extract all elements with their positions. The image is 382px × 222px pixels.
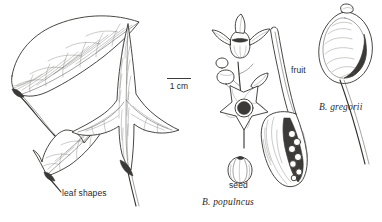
label-seed: seed (229, 181, 248, 190)
figure-follicle-fruit (261, 27, 307, 187)
label-fruit: fruit (291, 66, 306, 75)
label-leaf-shapes: leaf shapes (62, 189, 107, 198)
botanical-illustration-plate: .o { fill:#ffffff; stroke:#33322f; strok… (0, 0, 382, 222)
label-species-populneus: B. populncus (202, 198, 254, 208)
scale-bar: 1 cm (167, 78, 191, 91)
figure-gregorii-fruit (319, 4, 373, 164)
scale-bar-line (167, 78, 191, 79)
scale-bar-label: 1 cm (167, 82, 191, 91)
label-species-gregorii: B. gregorii (319, 103, 363, 113)
